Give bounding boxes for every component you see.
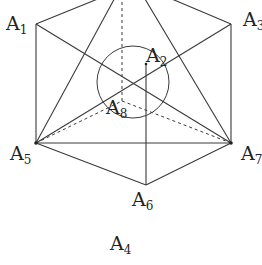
vertex-labels: A1 A2 A3 A5 A6 A7 A8 A4 (5, 8, 262, 257)
vertex-point-a5 (34, 141, 38, 145)
label-a5: A5 (9, 142, 31, 167)
edge-a1-top (36, 0, 110, 24)
vertex-point-a7 (229, 141, 233, 145)
hidden-edges (36, 0, 231, 143)
line-a7-top (142, 0, 231, 143)
solid-edges (36, 0, 231, 185)
label-a7: A7 (240, 142, 262, 167)
cube-diagram: A1 A2 A3 A5 A6 A7 A8 A4 (0, 0, 262, 265)
edge-a3-top (160, 0, 231, 24)
hidden-edge-a8-a7 (122, 101, 231, 143)
label-a8: A8 (105, 96, 127, 121)
label-a3: A3 (242, 8, 262, 33)
label-a4: A4 (109, 232, 132, 257)
label-a6: A6 (131, 188, 153, 213)
label-a1: A1 (5, 12, 27, 37)
line-a5-top (36, 0, 117, 143)
edge-a6-a7 (146, 143, 231, 185)
label-a2: A2 (145, 44, 167, 69)
edge-a5-a6 (36, 143, 146, 185)
